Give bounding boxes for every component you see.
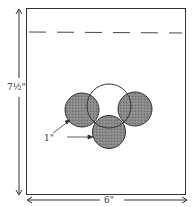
pattern-diagram xyxy=(0,0,192,207)
fabric-rectangle xyxy=(27,9,186,195)
right-shaded-circle xyxy=(118,92,152,126)
bottom-shaded-circle xyxy=(93,116,126,149)
fold-line-dashed xyxy=(29,32,182,33)
width-label: 6" xyxy=(104,195,114,205)
circle-size-label: 1" xyxy=(44,133,54,143)
height-dimension-arrow xyxy=(16,9,22,195)
height-label: 7½" xyxy=(7,82,26,92)
